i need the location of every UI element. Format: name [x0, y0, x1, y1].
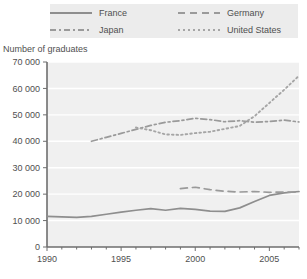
chart-canvas: 010 00020 00030 00040 00050 00060 00070 …	[0, 56, 307, 279]
y-axis-tick-label: 0	[35, 242, 40, 252]
legend-item-germany: Germany	[178, 4, 298, 21]
chart-legend: France Germany Japan United States	[50, 4, 298, 38]
legend-label-japan: Japan	[99, 25, 124, 35]
y-axis-tick-label: 20 000	[12, 189, 40, 199]
x-axis-tick-label: 2005	[259, 254, 279, 264]
chart-figure: France Germany Japan United States Numbe…	[0, 0, 307, 279]
legend-item-united-states: United States	[178, 21, 298, 38]
y-axis-tick-label: 40 000	[12, 136, 40, 146]
legend-label-germany: Germany	[227, 8, 264, 18]
x-axis-tick-label: 1990	[37, 254, 57, 264]
plot-area: 010 00020 00030 00040 00050 00060 00070 …	[0, 56, 307, 279]
x-axis-tick-label: 2000	[185, 254, 205, 264]
plot-background	[47, 62, 299, 247]
y-axis-tick-label: 30 000	[12, 163, 40, 173]
legend-swatch-dotted-icon	[178, 25, 220, 35]
legend-item-japan: Japan	[50, 21, 178, 38]
x-axis-tick-label: 1995	[111, 254, 131, 264]
legend-item-france: France	[50, 4, 178, 21]
legend-swatch-solid-icon	[50, 8, 92, 18]
legend-swatch-dashed-icon	[178, 8, 220, 18]
legend-label-united-states: United States	[227, 25, 281, 35]
y-axis-tick-label: 50 000	[12, 110, 40, 120]
legend-label-france: France	[99, 8, 127, 18]
y-axis-tick-label: 60 000	[12, 84, 40, 94]
legend-swatch-dashdot-icon	[50, 25, 92, 35]
y-axis-tick-label: 10 000	[12, 216, 40, 226]
y-axis-title: Number of graduates	[3, 44, 88, 54]
y-axis-tick-label: 70 000	[12, 57, 40, 67]
